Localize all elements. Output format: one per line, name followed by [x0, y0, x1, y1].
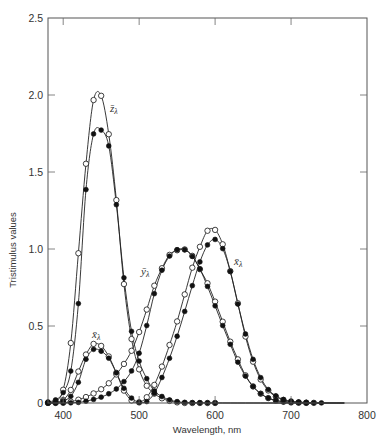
data-point-filled [205, 284, 210, 289]
series-curve [48, 228, 344, 403]
data-point-open [190, 265, 195, 270]
data-point-filled [220, 246, 225, 251]
data-point-filled [235, 302, 240, 307]
y-tick-label: 2.5 [28, 12, 43, 24]
data-point-filled [266, 396, 271, 401]
data-point-filled [114, 387, 119, 392]
data-point-filled [182, 247, 187, 252]
data-point-filled [175, 334, 180, 339]
data-point-filled [213, 303, 218, 308]
data-point-filled [106, 144, 111, 149]
data-point-open [212, 227, 217, 232]
data-point-filled [198, 267, 203, 272]
data-point-open [98, 387, 103, 392]
data-point-filled [76, 400, 81, 405]
data-point-filled [84, 187, 89, 192]
data-point-open [91, 391, 96, 396]
data-point-filled [53, 398, 58, 403]
data-point-open [76, 251, 81, 256]
y-tick-label: 2.0 [28, 89, 43, 101]
data-point-filled [243, 374, 248, 379]
data-point-open [98, 343, 103, 348]
data-point-filled [129, 369, 134, 374]
data-point-filled [160, 394, 165, 399]
x-axis-title: Wavelength, nm [173, 424, 241, 435]
data-point-filled [152, 291, 157, 296]
data-point-filled [258, 375, 263, 380]
data-point-filled [190, 254, 195, 259]
data-point-filled [122, 386, 127, 391]
data-point-filled [99, 395, 104, 400]
data-point-open [68, 340, 73, 345]
data-point-filled [91, 132, 96, 137]
data-point-filled [273, 398, 278, 403]
data-point-filled [175, 247, 180, 252]
data-point-filled [106, 356, 111, 361]
svg-text:z̄λ: z̄λ [109, 102, 118, 116]
data-point-filled [137, 351, 142, 356]
x-tick-label: 800 [358, 409, 376, 421]
y-tick-label: 1.0 [28, 243, 43, 255]
data-point-filled [167, 397, 172, 402]
data-point-filled [76, 380, 81, 385]
data-point-filled [167, 356, 172, 361]
data-point-filled [99, 349, 104, 354]
data-point-open [121, 281, 126, 286]
x-tick-label: 700 [282, 409, 300, 421]
data-point-filled [61, 390, 66, 395]
data-point-open [121, 361, 126, 366]
curve-label-xbar-main: x̄λ [233, 255, 243, 269]
data-point-open [136, 329, 141, 334]
data-point-open [76, 369, 81, 374]
curve-label-ybar: ȳλ [140, 265, 150, 279]
y-axis-title: Tristimulus values [7, 212, 18, 288]
data-point-filled [144, 376, 149, 381]
x-tick-label: 600 [206, 409, 224, 421]
data-point-filled [122, 379, 127, 384]
data-point-filled [213, 237, 218, 242]
series-curve [48, 128, 344, 403]
data-point-filled [160, 268, 165, 273]
data-point-filled [235, 360, 240, 365]
data-point-open [106, 381, 111, 386]
data-point-open [68, 387, 73, 392]
curves-layer [48, 91, 344, 403]
svg-text:ȳλ: ȳλ [140, 265, 150, 279]
data-point-open [98, 93, 103, 98]
data-point-open [83, 352, 88, 357]
data-point-filled [91, 347, 96, 352]
data-point-open [83, 161, 88, 166]
data-point-filled [122, 275, 127, 280]
data-point-filled [228, 342, 233, 347]
data-point-filled [251, 357, 256, 362]
data-point-filled [228, 269, 233, 274]
data-point-filled [182, 400, 187, 405]
data-point-open [144, 307, 149, 312]
data-point-filled [167, 254, 172, 259]
data-point-open [159, 364, 164, 369]
data-point-filled [266, 387, 271, 392]
data-point-filled [198, 259, 203, 264]
data-point-open [91, 97, 96, 102]
data-point-filled [258, 391, 263, 396]
data-point-filled [137, 359, 142, 364]
data-point-filled [152, 389, 157, 394]
data-point-open [167, 342, 172, 347]
data-point-filled [68, 369, 73, 374]
y-tick-label: 0 [37, 397, 43, 409]
data-point-filled [273, 393, 278, 398]
series-curve [48, 239, 344, 403]
data-point-open [129, 336, 134, 341]
data-point-filled [99, 128, 104, 133]
axis-tick-labels: 40050060070080000.51.01.52.02.5 [28, 12, 376, 421]
data-point-open [91, 341, 96, 346]
data-point-filled [220, 323, 225, 328]
data-point-open [174, 319, 179, 324]
data-point-filled [190, 283, 195, 288]
svg-text:x̄λ: x̄λ [91, 328, 101, 342]
data-point-open [144, 383, 149, 388]
y-tick-label: 1.5 [28, 166, 43, 178]
x-tick-label: 500 [130, 409, 148, 421]
data-point-filled [129, 396, 134, 401]
data-point-open [129, 348, 134, 353]
